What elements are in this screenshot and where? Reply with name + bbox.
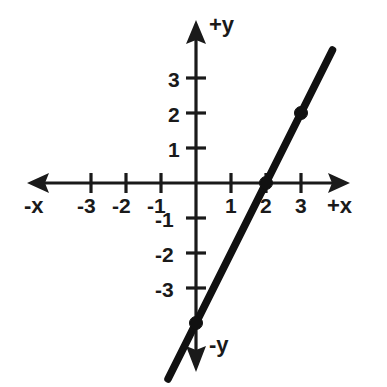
y-tick-label--1: -1 [155,209,174,230]
plotted-line [168,50,333,379]
y-tick-label--3: -3 [155,279,174,300]
axis-label-negative-y: -y [209,334,229,356]
y-tick-label-3: 3 [168,69,180,90]
coordinate-plane-figure: -3 -2 -1 1 2 3 3 2 1 -1 -2 -3 +y -y +x -… [0,0,387,387]
axis-label-negative-x: -x [24,195,44,217]
data-point-3-2 [295,107,308,120]
x-tick-label-3: 3 [295,195,307,216]
x-tick-label-1: 1 [225,195,237,216]
y-tick-label-1: 1 [168,139,180,160]
axis-label-positive-y: +y [209,14,234,36]
x-tick-label--2: -2 [112,195,131,216]
x-tick-label--3: -3 [77,195,96,216]
axis-label-positive-x: +x [327,195,352,217]
y-tick-label--2: -2 [155,244,174,265]
data-point-2-0 [260,177,273,190]
y-tick-label-2: 2 [168,104,180,125]
data-point-0--4 [190,317,203,330]
x-tick-label-2: 2 [260,195,272,216]
